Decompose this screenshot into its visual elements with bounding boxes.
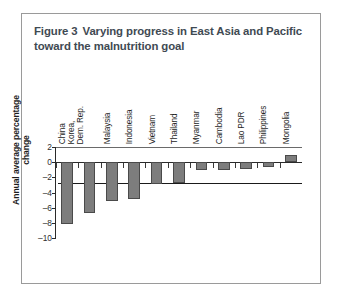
bar bbox=[128, 162, 140, 198]
x-minor-tick bbox=[145, 163, 146, 168]
x-axis-label: Korea,Dem. Rep. bbox=[66, 106, 84, 144]
figure-title: Figure 3Varying progress in East Asia an… bbox=[34, 24, 314, 54]
x-axis-label: Mongolia bbox=[282, 112, 291, 144]
x-axis-label: Myanmar bbox=[192, 110, 201, 144]
y-tick-label: 0 bbox=[30, 157, 52, 167]
x-minor-tick bbox=[168, 163, 169, 168]
bar bbox=[240, 162, 252, 169]
bar bbox=[285, 155, 297, 163]
y-tick-label: –4 bbox=[30, 188, 52, 198]
bar bbox=[61, 162, 73, 224]
x-axis-label-line: Mongolia bbox=[282, 112, 291, 144]
x-minor-tick bbox=[123, 163, 124, 168]
x-minor-tick bbox=[78, 163, 79, 168]
x-minor-tick bbox=[280, 163, 281, 168]
x-minor-tick bbox=[257, 163, 258, 168]
x-axis-label-line: Indonesia bbox=[125, 109, 134, 144]
x-axis-label: Cambodia bbox=[215, 107, 224, 144]
x-axis-label-line: Cambodia bbox=[215, 107, 224, 144]
x-axis-label-line: Vietnam bbox=[147, 115, 156, 144]
bar bbox=[173, 162, 185, 182]
x-minor-tick bbox=[101, 163, 102, 168]
x-axis-label: Indonesia bbox=[125, 109, 134, 144]
y-tick-mark bbox=[52, 223, 56, 224]
plot-area bbox=[56, 147, 302, 238]
y-tick-mark bbox=[52, 238, 56, 239]
bar bbox=[196, 162, 208, 170]
bar bbox=[263, 162, 275, 167]
y-tick-mark bbox=[52, 147, 56, 148]
y-tick-label: 2 bbox=[30, 142, 52, 152]
x-axis-label-line: Dem. Rep. bbox=[75, 106, 84, 144]
x-axis-category-labels: ChinaKorea,Dem. Rep.MalaysiaIndonesiaVie… bbox=[56, 60, 302, 144]
x-axis-label: Philippines bbox=[259, 106, 268, 144]
y-tick-mark bbox=[52, 208, 56, 209]
x-axis-label-line: Lao PDR bbox=[237, 111, 246, 144]
y-tick-mark bbox=[52, 193, 56, 194]
x-axis-label-line: Malaysia bbox=[103, 112, 112, 144]
y-axis-tick-labels: 20–2–4–6–8–10 bbox=[26, 0, 52, 299]
y-tick-label: –10 bbox=[30, 233, 52, 243]
y-tick-label: –2 bbox=[30, 172, 52, 182]
x-minor-tick bbox=[213, 163, 214, 168]
x-axis-label: Malaysia bbox=[103, 112, 112, 144]
x-axis-label-line: Philippines bbox=[259, 106, 268, 144]
bar bbox=[106, 162, 118, 201]
x-minor-tick bbox=[235, 163, 236, 168]
x-axis-label-line: Thailand bbox=[170, 113, 179, 144]
x-axis-label: Vietnam bbox=[147, 115, 156, 144]
bar bbox=[151, 162, 163, 184]
bar bbox=[84, 162, 96, 213]
bar bbox=[218, 162, 230, 170]
y-tick-label: –8 bbox=[30, 218, 52, 228]
x-minor-tick bbox=[190, 163, 191, 168]
y-tick-label: –6 bbox=[30, 203, 52, 213]
x-axis-label-line: Myanmar bbox=[192, 110, 201, 144]
x-minor-tick bbox=[56, 163, 57, 168]
x-axis-label: Lao PDR bbox=[237, 111, 246, 144]
y-tick-mark bbox=[52, 177, 56, 178]
x-axis-label: Thailand bbox=[170, 113, 179, 144]
